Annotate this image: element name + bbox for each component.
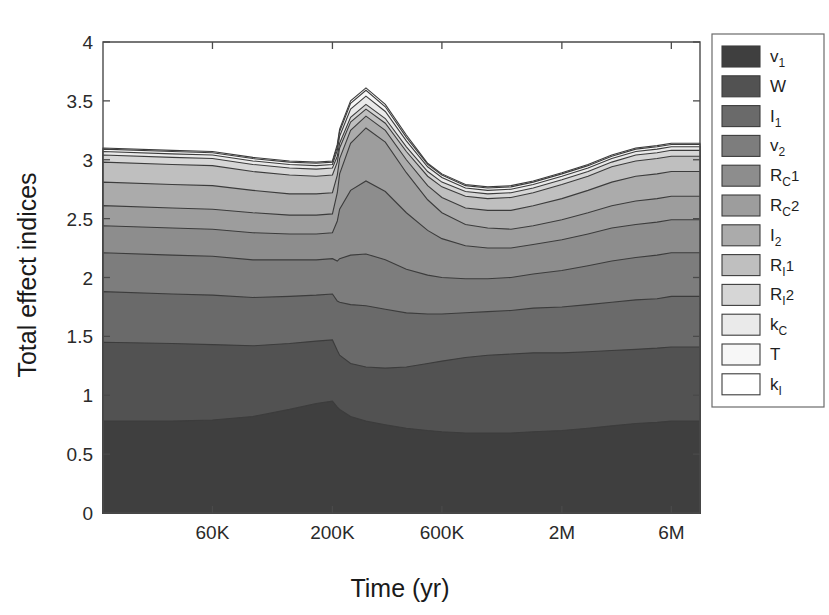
legend-swatch-T [722, 344, 760, 365]
x-tick-label: 2M [549, 522, 575, 543]
y-tick-label: 3 [82, 150, 93, 171]
y-axis-label: Total effect indices [13, 172, 41, 377]
y-tick-label: 0 [82, 503, 93, 524]
x-tick-label: 200K [310, 522, 355, 543]
y-tick-label: 3.5 [67, 91, 93, 112]
legend-swatch-RC1 [722, 165, 760, 186]
chart-legend: v1WI1v2RC1RC2I2RI1RI2kCTkI [712, 34, 824, 407]
x-tick-label: 6M [658, 522, 684, 543]
area-bands-group [103, 88, 700, 513]
legend-label-T: T [770, 345, 780, 364]
chart-figure: 00.511.522.533.5460K200K600K2M6M v1WI1v2… [0, 0, 829, 615]
legend-swatch-RI2 [722, 284, 760, 305]
y-tick-label: 0.5 [67, 444, 93, 465]
x-tick-label: 600K [420, 522, 465, 543]
legend-swatch-v1 [722, 46, 760, 67]
legend-swatch-kI [722, 374, 760, 395]
x-tick-label: 60K [196, 522, 230, 543]
y-tick-label: 4 [82, 32, 93, 53]
legend-swatch-RI1 [722, 255, 760, 276]
y-tick-label: 2.5 [67, 209, 93, 230]
x-axis-label: Time (yr) [350, 574, 449, 602]
legend-swatch-I2 [722, 225, 760, 246]
legend-swatch-kC [722, 314, 760, 335]
y-tick-label: 1.5 [67, 326, 93, 347]
legend-swatch-RC2 [722, 195, 760, 216]
legend-swatch-W [722, 76, 760, 97]
y-tick-label: 1 [82, 385, 93, 406]
y-tick-label: 2 [82, 268, 93, 289]
legend-swatch-I1 [722, 106, 760, 127]
stacked-area-chart: 00.511.522.533.5460K200K600K2M6M v1WI1v2… [0, 0, 829, 615]
legend-label-W: W [770, 77, 786, 96]
legend-swatch-v2 [722, 135, 760, 156]
